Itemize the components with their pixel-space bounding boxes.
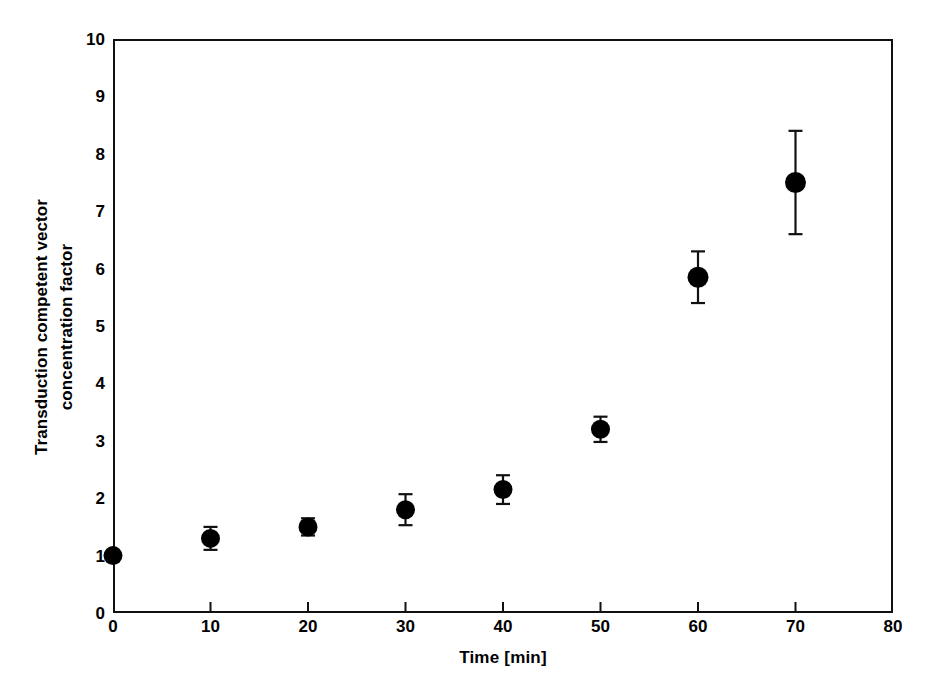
y-tick-label-10: 10 bbox=[63, 31, 105, 48]
x-tick-label-70: 70 bbox=[766, 618, 826, 635]
y-axis-tick-labels: 012345678910 bbox=[55, 0, 105, 699]
y-tick-label-1: 1 bbox=[63, 547, 105, 564]
y-tick-label-3: 3 bbox=[63, 432, 105, 449]
x-axis-title: Time [min] bbox=[113, 648, 893, 668]
plot-area bbox=[113, 39, 893, 613]
x-tick-label-60: 60 bbox=[668, 618, 728, 635]
y-tick-label-8: 8 bbox=[63, 145, 105, 162]
x-axis-tick-labels: 01020304050607080 bbox=[0, 618, 939, 652]
y-tick-label-7: 7 bbox=[63, 203, 105, 220]
y-axis-title-line-1: Transduction competent vector bbox=[30, 199, 55, 455]
x-tick-label-80: 80 bbox=[863, 618, 923, 635]
x-tick-label-40: 40 bbox=[473, 618, 533, 635]
x-tick-label-30: 30 bbox=[376, 618, 436, 635]
x-tick-label-10: 10 bbox=[181, 618, 241, 635]
chart-figure: Transduction competent vector concentrat… bbox=[0, 0, 939, 699]
y-tick-label-9: 9 bbox=[63, 88, 105, 105]
x-tick-label-0: 0 bbox=[83, 618, 143, 635]
y-tick-label-5: 5 bbox=[63, 318, 105, 335]
y-tick-label-6: 6 bbox=[63, 260, 105, 277]
y-tick-label-2: 2 bbox=[63, 490, 105, 507]
x-tick-label-20: 20 bbox=[278, 618, 338, 635]
y-tick-label-4: 4 bbox=[63, 375, 105, 392]
x-tick-label-50: 50 bbox=[571, 618, 631, 635]
